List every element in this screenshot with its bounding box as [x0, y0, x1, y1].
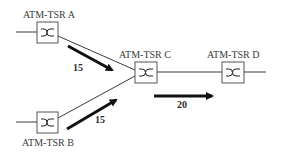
switch-a-icon — [37, 22, 58, 43]
switch-b-icon — [37, 112, 58, 133]
node-label-d: ATM-TSR D — [207, 50, 260, 60]
switch-d-icon — [222, 62, 244, 83]
node-label-a: ATM-TSR A — [23, 10, 75, 20]
switch-c-icon — [135, 62, 157, 83]
node-label-c: ATM-TSR C — [119, 50, 171, 60]
node-label-b: ATM-TSR B — [22, 138, 74, 148]
flow-value-a-c: 15 — [73, 63, 83, 73]
flow-value-b-c: 15 — [95, 115, 105, 125]
network-diagram: ATM-TSR A ATM-TSR B ATM-TSR C ATM-TSR D … — [0, 0, 282, 156]
flow-value-c-d: 20 — [177, 100, 187, 110]
flow-arrow-b-c — [67, 100, 116, 129]
